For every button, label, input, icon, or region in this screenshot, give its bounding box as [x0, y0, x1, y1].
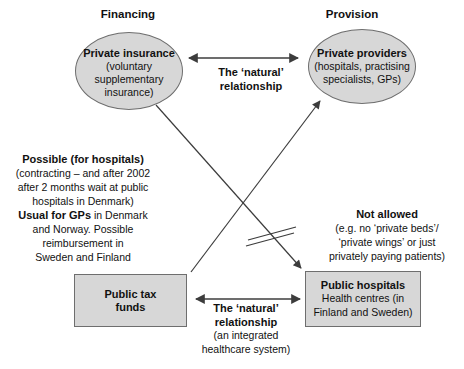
node-subtitle: (voluntary supplementary insurance): [95, 60, 164, 99]
node-public-hospitals: Public hospitals Health centres (in Finl…: [305, 271, 421, 327]
note-line: and Norway. Possible: [3, 222, 163, 236]
node-subtitle-line: (hospitals, practising: [314, 60, 410, 73]
note-line-regular-part: in Denmark: [91, 209, 148, 221]
healthcare-financing-provision-diagram: Financing Provision Private insurance (v…: [0, 0, 464, 369]
note-possible-for-hospitals: Possible (for hospitals) (contracting – …: [3, 152, 163, 264]
node-title: Private providers: [317, 47, 407, 60]
note-not-allowed: Not allowed (e.g. no ‘private beds’/ ‘pr…: [312, 207, 462, 263]
node-subtitle-line: Health centres (in: [313, 292, 412, 306]
note-line: Usual for GPs in Denmark: [3, 208, 163, 222]
note-heading: Possible (for hospitals): [3, 152, 163, 166]
column-header-financing: Financing: [68, 8, 188, 20]
note-line: reimbursement in: [3, 236, 163, 250]
label-natural-relationship-top: The ‘natural’ relationship: [191, 66, 311, 93]
label-line: relationship: [191, 80, 311, 94]
node-subtitle: (hospitals, practising specialists, GPs): [314, 60, 410, 86]
column-header-provision: Provision: [292, 8, 412, 20]
label-line: healthcare system): [186, 343, 306, 357]
note-line-bold-part: Usual for GPs: [18, 209, 91, 221]
node-title: Public tax funds: [105, 288, 157, 314]
node-private-providers: Private providers (hospitals, practising…: [308, 29, 416, 104]
node-title-line: funds: [105, 301, 157, 314]
label-line: The ‘natural’: [186, 302, 306, 316]
note-line: ‘private wings’ or just: [312, 235, 462, 249]
node-subtitle-line: Finland and Sweden): [313, 306, 412, 320]
note-line: after 2 months wait at public: [3, 180, 163, 194]
note-line: hospitals in Denmark): [3, 194, 163, 208]
node-title: Public hospitals: [321, 279, 405, 293]
tax-funds-to-private-providers-arrow: [191, 101, 320, 272]
note-line: privately paying patients): [312, 249, 462, 263]
node-subtitle-line: supplementary: [95, 73, 164, 86]
note-line: (contracting – and after 2002: [3, 166, 163, 180]
node-subtitle: Health centres (in Finland and Sweden): [313, 292, 412, 319]
node-subtitle-line: (voluntary: [95, 60, 164, 73]
node-subtitle-line: insurance): [95, 86, 164, 99]
label-line: (an integrated: [186, 329, 306, 343]
label-natural-relationship-bottom: The ‘natural’ relationship (an integrate…: [186, 302, 306, 356]
node-title-line: Public tax: [105, 288, 157, 301]
label-line: The ‘natural’: [191, 66, 311, 80]
not-allowed-slash-marks: [246, 227, 296, 246]
note-line: Sweden and Finland: [3, 250, 163, 264]
node-public-tax-funds: Public tax funds: [74, 274, 187, 327]
note-heading: Not allowed: [312, 207, 462, 221]
node-private-insurance: Private insurance (voluntary supplementa…: [75, 32, 183, 110]
insurance-to-public-hospitals-arrow: [156, 105, 301, 268]
label-line: relationship: [186, 316, 306, 330]
note-line: (e.g. no ‘private beds’/: [312, 221, 462, 235]
node-title: Private insurance: [83, 47, 175, 60]
node-subtitle-line: specialists, GPs): [314, 73, 410, 86]
